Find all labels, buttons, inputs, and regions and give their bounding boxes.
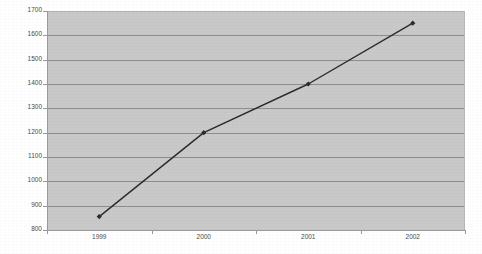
gridline: [48, 133, 464, 134]
plot-area: [47, 11, 465, 230]
y-axis-tick-label: 800: [8, 226, 42, 233]
y-axis-tick-label: 1000: [8, 177, 42, 184]
gridline: [48, 157, 464, 158]
y-axis-tick-label: 1300: [8, 104, 42, 111]
y-axis-tick-label: 900: [8, 202, 42, 209]
y-axis-tick-label: 1700: [8, 7, 42, 14]
x-axis-tick-label: 2001: [286, 234, 330, 241]
y-axis-tick-label: 1500: [8, 56, 42, 63]
line-chart: 17001600150014001300120011001000900800 1…: [0, 0, 482, 254]
x-axis-tick-label: 2002: [391, 234, 435, 241]
gridline: [48, 35, 464, 36]
x-axis-tick-label: 1999: [77, 234, 121, 241]
x-axis-tick-label: 2000: [182, 234, 226, 241]
y-axis-line: [47, 11, 48, 231]
y-axis-tick-label: 1100: [8, 153, 42, 160]
gridline: [48, 84, 464, 85]
x-axis-line: [47, 230, 466, 231]
gridline: [48, 108, 464, 109]
y-axis-tick-label: 1600: [8, 31, 42, 38]
gridline: [48, 11, 464, 12]
gridline: [48, 60, 464, 61]
y-axis-tick-label: 1200: [8, 129, 42, 136]
gridline: [48, 181, 464, 182]
gridline: [48, 206, 464, 207]
y-axis-tick-label: 1400: [8, 80, 42, 87]
